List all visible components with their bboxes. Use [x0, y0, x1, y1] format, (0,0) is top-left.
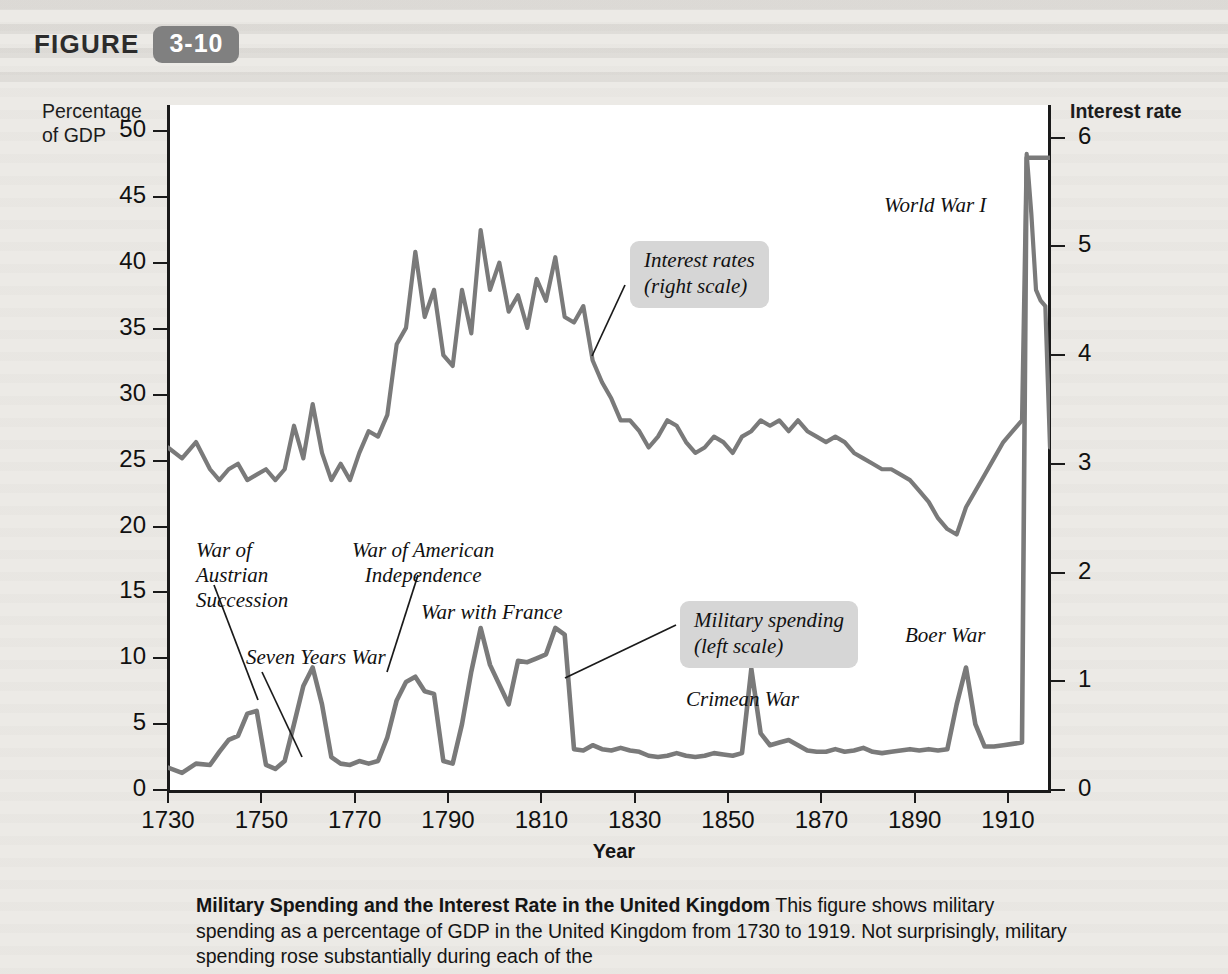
x-tick-1910 — [1007, 790, 1009, 803]
y-axis-right-title: Interest rate — [1070, 100, 1182, 124]
y-tick-label-left-20: 20 — [96, 511, 146, 539]
annotation-austrian-line1: War of — [196, 538, 288, 563]
caption-title: Military Spending and the Interest Rate … — [196, 894, 770, 916]
annotation-crimean-war: Crimean War — [686, 687, 799, 712]
y-tick-label-left-15: 15 — [96, 576, 146, 604]
x-tick-label-1770: 1770 — [309, 806, 401, 834]
y-tick-left-35 — [153, 328, 168, 330]
y-tick-left-20 — [153, 526, 168, 528]
x-tick-label-1830: 1830 — [589, 806, 681, 834]
x-tick-label-1910: 1910 — [962, 806, 1054, 834]
y-tick-label-left-10: 10 — [96, 642, 146, 670]
x-tick-1790 — [447, 790, 449, 803]
x-tick-label-1870: 1870 — [775, 806, 867, 834]
x-tick-label-1850: 1850 — [682, 806, 774, 834]
y-tick-right-4 — [1050, 354, 1065, 356]
y-tick-label-left-30: 30 — [96, 379, 146, 407]
y-tick-label-left-0: 0 — [96, 774, 146, 802]
y-tick-left-45 — [153, 196, 168, 198]
y-tick-left-25 — [153, 460, 168, 462]
x-tick-1830 — [634, 790, 636, 803]
y-tick-left-30 — [153, 394, 168, 396]
x-tick-1810 — [540, 790, 542, 803]
annotation-boer-war: Boer War — [905, 623, 985, 648]
y-tick-label-right-0: 0 — [1078, 774, 1091, 802]
y-tick-left-0 — [153, 789, 168, 791]
x-axis-title: Year — [0, 840, 1228, 863]
x-tick-1770 — [354, 790, 356, 803]
y-tick-label-left-5: 5 — [96, 708, 146, 736]
x-tick-1890 — [914, 790, 916, 803]
y-tick-left-10 — [153, 657, 168, 659]
y-tick-left-5 — [153, 723, 168, 725]
callout-interest-line2: (right scale) — [644, 274, 755, 300]
x-tick-label-1790: 1790 — [402, 806, 494, 834]
annotation-american-line2: Independence — [352, 563, 494, 588]
x-tick-label-1750: 1750 — [215, 806, 307, 834]
y-tick-label-left-50: 50 — [96, 115, 146, 143]
y-tick-label-left-40: 40 — [96, 247, 146, 275]
y-tick-right-3 — [1050, 463, 1065, 465]
annotation-war-of-american-independence: War of American Independence — [352, 538, 494, 588]
y-tick-label-right-2: 2 — [1078, 557, 1091, 585]
annotation-american-line1: War of American — [352, 538, 494, 563]
y-tick-right-1 — [1050, 680, 1065, 682]
y-tick-right-6 — [1050, 137, 1065, 139]
x-tick-label-1730: 1730 — [122, 806, 214, 834]
y-tick-label-left-45: 45 — [96, 181, 146, 209]
callout-military-line2: (left scale) — [694, 634, 844, 660]
x-tick-label-1890: 1890 — [869, 806, 961, 834]
y-tick-left-15 — [153, 591, 168, 593]
y-tick-right-5 — [1050, 245, 1065, 247]
annotation-war-with-france: War with France — [421, 600, 563, 625]
annotation-austrian-line3: Succession — [196, 588, 288, 613]
y-tick-left-50 — [153, 130, 168, 132]
figure-label: FIGURE — [34, 29, 139, 60]
y-tick-label-right-5: 5 — [1078, 230, 1091, 258]
x-tick-1870 — [820, 790, 822, 803]
annotation-austrian-line2: Austrian — [196, 563, 288, 588]
x-axis-line — [167, 790, 1051, 793]
figure-caption: Military Spending and the Interest Rate … — [196, 893, 1076, 970]
y-tick-label-right-6: 6 — [1078, 122, 1091, 150]
annotation-war-of-austrian-succession: War of Austrian Succession — [196, 538, 288, 614]
y-tick-left-40 — [153, 262, 168, 264]
y-tick-label-left-25: 25 — [96, 445, 146, 473]
y-tick-label-left-35: 35 — [96, 313, 146, 341]
annotation-seven-years-war: Seven Years War — [246, 645, 386, 670]
x-tick-1750 — [260, 790, 262, 803]
figure-header: FIGURE 3-10 — [34, 26, 239, 63]
y-tick-label-right-4: 4 — [1078, 339, 1091, 367]
y-tick-right-2 — [1050, 572, 1065, 574]
military-spending-line — [168, 158, 1050, 773]
x-tick-1730 — [167, 790, 169, 803]
x-tick-label-1810: 1810 — [495, 806, 587, 834]
callout-interest-rates: Interest rates (right scale) — [630, 241, 769, 308]
y-tick-label-right-1: 1 — [1078, 665, 1091, 693]
figure-number-badge: 3-10 — [153, 26, 239, 63]
callout-military-spending: Military spending (left scale) — [680, 601, 858, 668]
y-tick-label-right-3: 3 — [1078, 448, 1091, 476]
x-tick-1850 — [727, 790, 729, 803]
callout-military-line1: Military spending — [694, 608, 844, 634]
y-tick-right-0 — [1050, 789, 1065, 791]
annotation-world-war-i: World War I — [884, 193, 986, 218]
callout-interest-line1: Interest rates — [644, 248, 755, 274]
